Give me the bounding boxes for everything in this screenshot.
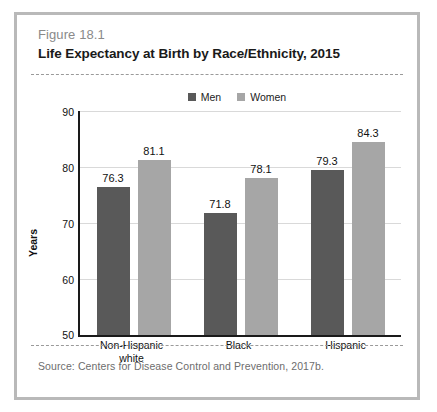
bar-wrap-men-0: 76.3 [97,111,130,335]
bar-value-men-2: 79.3 [316,155,337,167]
bar-value-women-0: 81.1 [143,145,164,157]
bar-value-men-0: 76.3 [102,172,123,184]
bar-value-men-1: 71.8 [209,198,230,210]
legend-item-women: Women [237,91,286,103]
plot-area: 90 80 70 60 50 76.3 [78,111,401,337]
bar-men-2[interactable] [311,170,344,335]
bar-men-0[interactable] [97,187,130,335]
bar-value-women-1: 78.1 [250,163,271,175]
bar-wrap-men-1: 71.8 [204,111,237,335]
bar-value-women-2: 84.3 [357,127,378,139]
figure-card-inner: Figure 18.1 Life Expectancy at Birth by … [17,15,417,397]
bar-group-non-hispanic-white: 76.3 81.1 [80,111,187,335]
divider-top [31,74,403,75]
y-tick-label-80: 80 [62,162,74,174]
legend-swatch-men [188,93,196,101]
bar-wrap-women-2: 84.3 [352,111,385,335]
chart-legend: Men Women [17,87,417,107]
legend-item-men: Men [188,91,221,103]
legend-label-women: Women [250,91,286,103]
bar-women-0[interactable] [138,160,171,335]
bar-chart: Men Women Years 90 80 70 6 [17,87,417,342]
y-tick-label-90: 90 [62,106,74,118]
bar-men-1[interactable] [204,213,237,335]
bar-women-1[interactable] [245,178,278,335]
bar-series-container: 76.3 81.1 71.8 [80,111,401,335]
divider-bottom [31,345,403,346]
bar-group-hispanic: 79.3 84.3 [294,111,401,335]
source-note: Source: Centers for Disease Control and … [38,360,324,372]
figure-card: Figure 18.1 Life Expectancy at Birth by … [14,12,420,400]
bar-group-black: 71.8 78.1 [187,111,294,335]
y-axis-title: Years [27,213,39,273]
legend-swatch-women [237,93,245,101]
legend-label-men: Men [201,91,221,103]
page-title: Life Expectancy at Birth by Race/Ethnici… [38,46,340,61]
y-tick-label-50: 50 [62,329,74,341]
y-tick-label-70: 70 [62,218,74,230]
bar-wrap-women-0: 81.1 [138,111,171,335]
bar-women-2[interactable] [352,142,385,335]
bar-wrap-women-1: 78.1 [245,111,278,335]
bar-wrap-men-2: 79.3 [311,111,344,335]
figure-number: Figure 18.1 [38,27,105,42]
y-tick-label-60: 60 [62,274,74,286]
